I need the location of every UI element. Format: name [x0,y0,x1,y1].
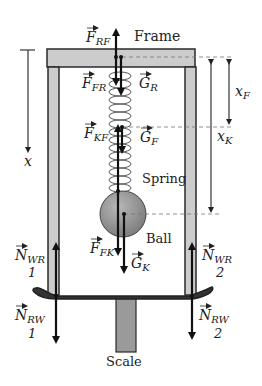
dim-label-x-k: xK [217,128,233,146]
svg-text:FFK: FFK [89,240,115,258]
frame-left-post [48,67,59,295]
svg-text:1: 1 [28,265,36,280]
svg-text:FKF: FKF [83,125,109,143]
svg-text:2: 2 [215,265,224,280]
svg-text:1: 1 [28,326,36,341]
label-ball: Ball [146,231,172,246]
svg-text:GF: GF [140,129,159,147]
force-label-G-R: GR [139,74,158,93]
svg-text:FRF: FRF [85,29,111,47]
svg-text:NWR: NWR [14,247,46,265]
svg-text:2: 2 [213,326,222,341]
diagram-canvas: Frame Spring Ball Scale FRF FFR GR FKF G… [0,0,262,386]
svg-text:GR: GR [139,75,158,93]
force-label-N-RW-1: NRW 1 [14,306,46,341]
scale [33,287,213,352]
svg-text:GK: GK [131,255,150,273]
svg-text:NRW: NRW [14,307,46,325]
svg-text:NRW: NRW [198,307,230,325]
label-frame: Frame [134,28,180,44]
dimension-x [20,50,35,150]
frame-right-post [185,67,196,295]
force-label-F-KF: FKF [83,124,109,143]
physics-diagram: Frame Spring Ball Scale FRF FFR GR FKF G… [0,0,262,386]
label-scale: Scale [106,354,142,369]
force-label-N-WR-1: NWR 1 [14,246,46,280]
svg-text:FFR: FFR [81,75,107,93]
force-label-N-WR-2: NWR 2 [201,246,233,280]
scale-stand [116,297,136,352]
force-label-G-F: GF [140,128,159,147]
dim-label-x-f: xF [235,83,251,101]
force-label-N-RW-2: NRW 2 [198,306,230,341]
dim-label-x: x [24,153,32,169]
force-label-F-RF: FRF [85,28,111,47]
svg-text:NWR: NWR [201,247,233,265]
label-spring: Spring [142,171,186,186]
force-label-F-FK: FFK [89,239,115,258]
force-arrows [56,32,192,340]
force-label-G-K: GK [131,254,150,273]
force-label-F-FR: FFR [81,74,107,93]
